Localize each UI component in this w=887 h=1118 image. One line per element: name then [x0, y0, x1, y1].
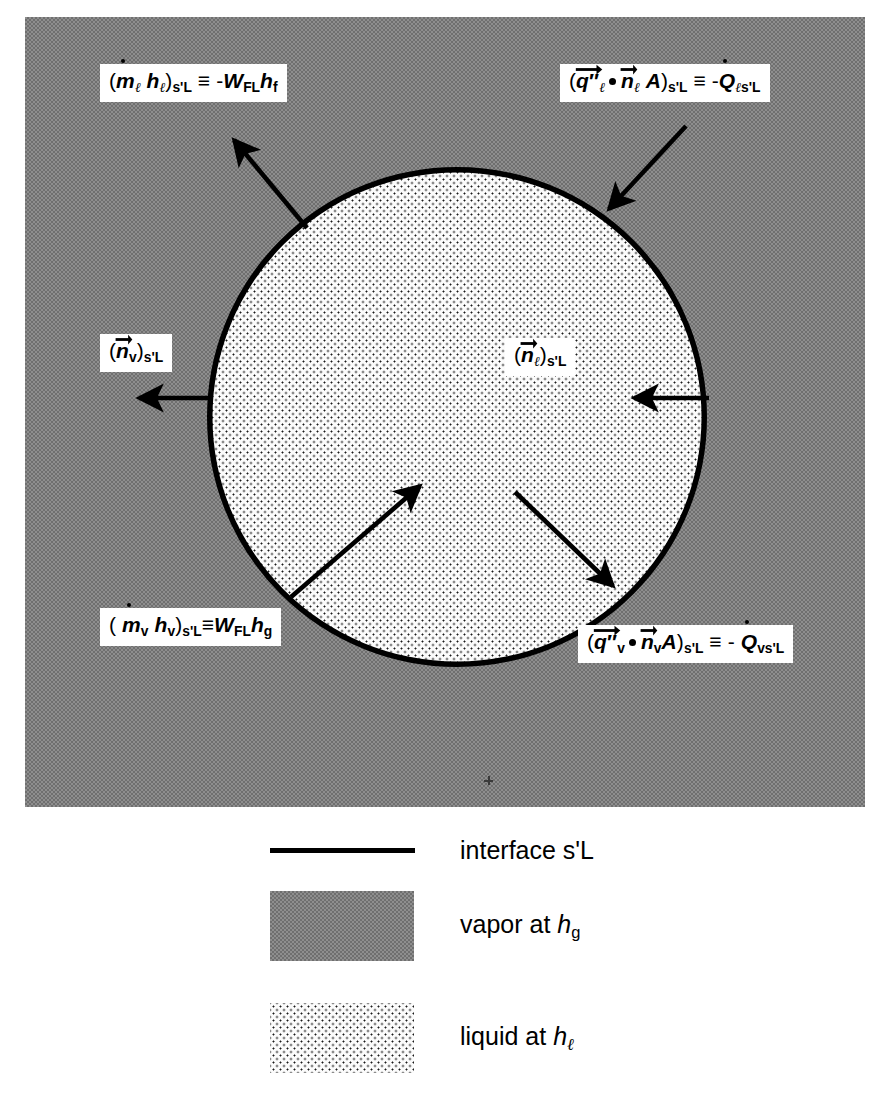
- vapor-normal-vector-label: (nv)s'L: [100, 334, 172, 372]
- legend-swatch-wrap: [270, 1003, 460, 1073]
- arrow-liquid-enthalpy-flux: [234, 140, 307, 228]
- legend-label-vapor-var: h: [557, 910, 571, 938]
- vapor-heat-flux-label: (q″vnvA)s'L ≡ - Qvs'L: [578, 625, 793, 663]
- legend-label-vapor: vapor at hg: [460, 910, 580, 942]
- figure-canvas: (mℓ hℓ)s'L ≡ -WFLhf (q″ℓnℓ A)s'L ≡ -Qℓs'…: [0, 0, 887, 1118]
- legend-item-liquid: liquid at hℓ: [270, 1002, 830, 1074]
- legend-label-liquid-text: liquid at: [460, 1022, 553, 1050]
- legend-item-vapor: vapor at hg: [270, 890, 830, 962]
- legend-swatch-wrap: [270, 891, 460, 961]
- interface-line-swatch: [270, 848, 415, 853]
- legend-label-liquid-sub: ℓ: [567, 1034, 574, 1053]
- arrow-liquid-heat-flux: [609, 126, 686, 209]
- arrow-vapor-heat-flux: [515, 492, 613, 586]
- legend-label-liquid-var: h: [553, 1022, 567, 1050]
- legend-item-interface: interface s'L: [270, 830, 830, 870]
- liquid-heat-flux-label: (q″ℓnℓ A)s'L ≡ -Qℓs'L: [560, 64, 770, 102]
- legend-label-liquid: liquid at hℓ: [460, 1022, 574, 1055]
- liquid-normal-vector-label: (nℓ)s'L: [505, 338, 575, 376]
- vapor-enthalpy-flux-label: ( mv hv)s'L≡WFLhg: [100, 608, 281, 646]
- legend-label-vapor-sub: g: [571, 923, 580, 941]
- legend-swatch-wrap: [270, 848, 460, 853]
- legend-label-vapor-text: vapor at: [460, 910, 557, 938]
- legend: interface s'L vapor at hg liquid at hℓ: [0, 812, 887, 1118]
- liquid-enthalpy-flux-label: (mℓ hℓ)s'L ≡ -WFLhf: [100, 64, 287, 102]
- liquid-fill-swatch: [270, 1003, 414, 1073]
- arrow-vapor-enthalpy-flux: [291, 486, 420, 597]
- vapor-fill-swatch: [270, 891, 414, 961]
- legend-label-interface: interface s'L: [460, 836, 594, 865]
